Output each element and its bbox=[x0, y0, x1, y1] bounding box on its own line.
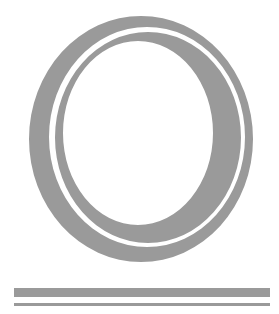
underline-thin-bar bbox=[14, 303, 270, 306]
underline-thick-bar bbox=[14, 288, 270, 297]
double-ring-o-icon bbox=[0, 0, 279, 314]
inner-ring bbox=[55, 32, 241, 243]
